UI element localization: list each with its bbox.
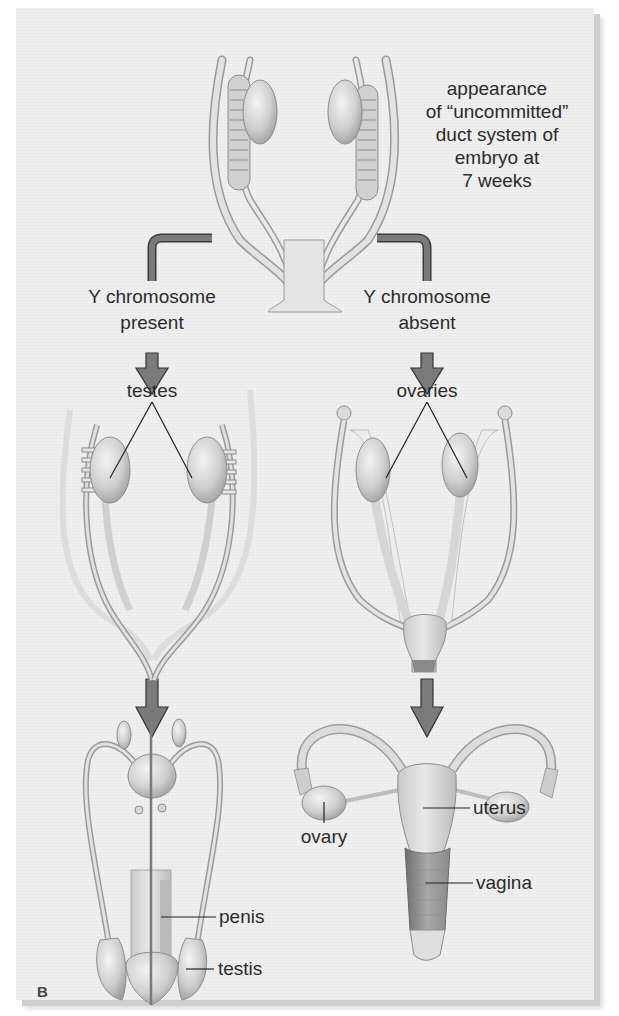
label-penis: penis	[219, 906, 264, 928]
panel-letter: B	[37, 983, 48, 1000]
embryo-caption: appearance of “uncommitted” duct system …	[426, 77, 569, 192]
down-arrow-icon	[411, 679, 443, 737]
caption-line: of “uncommitted”	[426, 100, 569, 123]
caption-line: appearance	[426, 77, 569, 100]
label-vagina: vagina	[476, 872, 532, 894]
condition-line: present	[88, 310, 215, 336]
label-testis: testis	[218, 958, 262, 980]
label-ovaries: ovaries	[396, 380, 457, 402]
caption-line: embryo at	[426, 146, 569, 169]
label-ovary: ovary	[301, 826, 347, 848]
condition-line: Y chromosome	[88, 284, 215, 310]
label-testes: testes	[127, 380, 178, 402]
caption-line: duct system of	[426, 123, 569, 146]
condition-y-absent: Y chromosome absent	[363, 284, 490, 336]
condition-line: absent	[363, 310, 490, 336]
condition-y-present: Y chromosome present	[88, 284, 215, 336]
caption-line: 7 weeks	[426, 169, 569, 192]
male-reproductive-system	[86, 700, 220, 1005]
testes-stage	[63, 390, 255, 680]
label-uterus: uterus	[473, 797, 526, 819]
condition-line: Y chromosome	[363, 284, 490, 310]
embryo-duct-system	[213, 60, 395, 312]
ovaries-stage	[334, 406, 514, 672]
